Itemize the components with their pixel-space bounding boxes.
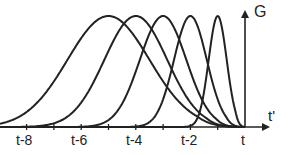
y-axis-label: G [254,4,266,20]
curve-line [0,16,245,127]
x-axis-label: t' [268,108,275,123]
response-curves [0,16,245,127]
tick-label: t-8 [16,133,32,147]
y-axis-arrow-icon [241,10,249,18]
tick-label: t-2 [181,133,197,147]
x-axis-arrow-icon [262,123,270,131]
tick-label: t-6 [71,133,87,147]
chart-canvas [0,0,292,155]
tick-label: t-4 [126,133,142,147]
tick-label: t [241,133,245,147]
